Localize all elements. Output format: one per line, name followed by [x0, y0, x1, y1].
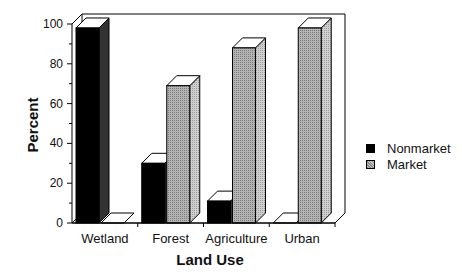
y-tick-label: 100: [43, 17, 63, 31]
x-category-agriculture: Agriculture: [205, 231, 267, 246]
y-tick-label: 40: [50, 136, 64, 150]
y-axis-title: Percent: [24, 97, 41, 152]
legend-item-nonmarket: Nonmarket: [366, 140, 451, 156]
bar-urban-market: [298, 18, 331, 223]
x-category-urban: Urban: [284, 231, 319, 246]
legend-label-market: Market: [387, 157, 427, 172]
bars-group: [76, 18, 331, 223]
legend-item-market: Market: [366, 156, 451, 172]
y-tick-label: 20: [50, 176, 64, 190]
legend: Nonmarket Market: [366, 140, 451, 172]
legend-swatch-nonmarket: [366, 144, 375, 153]
x-category-wetland: Wetland: [81, 231, 128, 246]
x-axis-title: Land Use: [176, 251, 244, 268]
y-tick-label: 0: [56, 216, 63, 230]
x-category-forest: Forest: [152, 231, 189, 246]
legend-label-nonmarket: Nonmarket: [387, 141, 451, 156]
y-tick-label: 80: [50, 57, 64, 71]
bar-wetland-nonmarket: [76, 18, 109, 223]
y-tick-label: 60: [50, 97, 64, 111]
bar-forest-market: [167, 76, 200, 223]
bar-agriculture-market: [233, 38, 266, 223]
legend-swatch-market: [366, 160, 375, 169]
